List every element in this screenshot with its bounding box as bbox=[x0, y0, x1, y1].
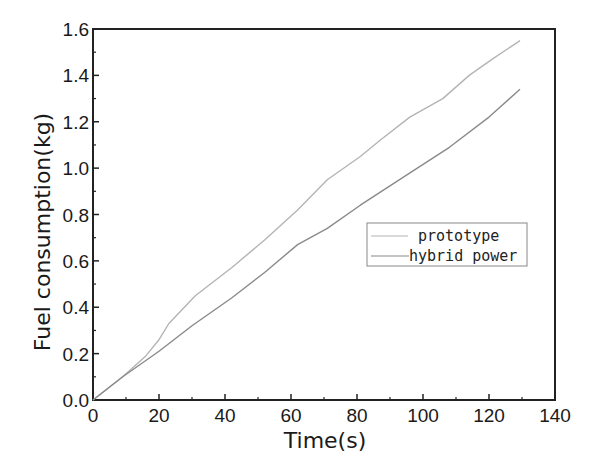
legend-label-hybrid-power: hybrid power bbox=[409, 247, 517, 265]
plot-area bbox=[93, 29, 555, 400]
series-layer bbox=[93, 41, 520, 400]
legend-label-prototype: prototype bbox=[418, 227, 499, 245]
x-tick-label: 20 bbox=[148, 405, 169, 426]
series-line-prototype bbox=[93, 41, 520, 400]
plot-frame bbox=[93, 29, 555, 400]
y-tick-label: 0.4 bbox=[63, 297, 90, 318]
x-axis-title: Time(s) bbox=[283, 428, 366, 453]
legend: prototype hybrid power bbox=[367, 223, 527, 266]
y-tick-label: 0.2 bbox=[63, 344, 89, 365]
y-tick-label: 1.2 bbox=[63, 112, 89, 133]
y-tick-label: 0.6 bbox=[63, 251, 89, 272]
x-tick-label: 100 bbox=[407, 405, 439, 426]
fuel-consumption-chart: 0.00.20.40.60.81.01.21.41.6 020406080100… bbox=[0, 0, 594, 471]
y-tick-label: 1.0 bbox=[63, 158, 89, 179]
x-tick-label: 120 bbox=[473, 405, 505, 426]
x-tick-label: 60 bbox=[280, 405, 301, 426]
x-tick-label: 80 bbox=[346, 405, 367, 426]
x-tick-label: 40 bbox=[214, 405, 235, 426]
y-axis-title: Fuel consumption(kg) bbox=[30, 113, 55, 351]
x-tick-label: 0 bbox=[88, 405, 99, 426]
x-axis-ticks: 020406080100120140 bbox=[88, 394, 571, 426]
y-tick-label: 0.8 bbox=[63, 205, 89, 226]
y-tick-label: 1.6 bbox=[63, 19, 89, 40]
y-tick-label: 0.0 bbox=[63, 390, 89, 411]
y-tick-label: 1.4 bbox=[63, 65, 90, 86]
x-tick-label: 140 bbox=[539, 405, 571, 426]
